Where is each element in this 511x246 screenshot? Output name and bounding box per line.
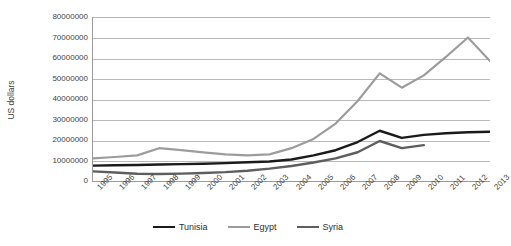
legend-label: Syria: [323, 222, 344, 232]
x-axis-tick-label: 1999: [184, 173, 202, 191]
legend-swatch-icon: [153, 226, 175, 228]
x-axis-tick-label: 1997: [140, 173, 158, 191]
legend-swatch-icon: [297, 226, 319, 228]
legend-item-tunisia[interactable]: Tunisia: [153, 222, 208, 232]
x-axis-tick-label: 2000: [206, 173, 224, 191]
x-axis-tick-label: 2006: [339, 173, 357, 191]
x-axis-tick-label: 2007: [361, 173, 379, 191]
x-axis-tick-label: 2003: [272, 173, 290, 191]
legend-label: Tunisia: [179, 222, 208, 232]
x-axis-tick-label: 1996: [118, 173, 136, 191]
x-axis-tick-label: 1995: [96, 173, 114, 191]
x-axis-tick-label: 2001: [228, 173, 246, 191]
x-axis-tick-label: 2010: [427, 173, 445, 191]
legend-item-egypt[interactable]: Egypt: [228, 222, 277, 232]
x-axis-tick-label: 2011: [449, 174, 467, 192]
x-axis-tick-label: 2004: [295, 173, 313, 191]
x-axis-tick-label: 2009: [405, 173, 423, 191]
legend-label: Egypt: [254, 222, 277, 232]
chart-legend: TunisiaEgyptSyria: [0, 222, 496, 232]
x-axis-tick-label: 2005: [317, 173, 335, 191]
x-axis-tick-label: 2002: [250, 173, 268, 191]
x-axis-tick-label: 2008: [383, 173, 401, 191]
x-axis-tick-label: 2012: [471, 173, 489, 191]
legend-item-syria[interactable]: Syria: [297, 222, 344, 232]
x-axis-tick-label: 1998: [162, 173, 180, 191]
x-axis-tick-label: 2013: [493, 173, 511, 191]
legend-swatch-icon: [228, 226, 250, 228]
